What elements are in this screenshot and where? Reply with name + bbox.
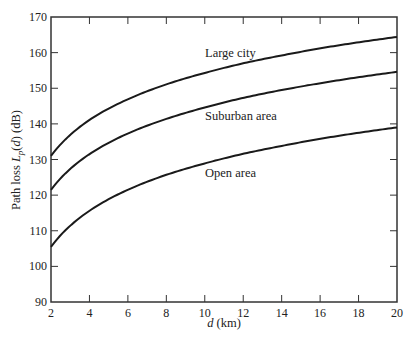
curve-label-open-area: Open area	[205, 166, 256, 180]
y-tick-label: 120	[29, 188, 47, 202]
curve-label-suburban-area: Suburban area	[205, 109, 277, 123]
y-tick-label: 160	[29, 46, 47, 60]
x-tick-label: 2	[48, 306, 54, 320]
y-axis-label: Path loss Lp(d) (dB)	[9, 110, 25, 210]
x-tick-label: 6	[125, 306, 131, 320]
y-tick-label: 140	[29, 117, 47, 131]
x-tick-label: 8	[163, 306, 169, 320]
x-tick-label: 14	[276, 306, 288, 320]
y-tick-label: 100	[29, 259, 47, 273]
x-tick-label: 20	[391, 306, 403, 320]
x-tick-label: 16	[314, 306, 326, 320]
y-tick-label: 170	[29, 10, 47, 24]
curves	[51, 37, 397, 247]
y-tick-labels: 90100110120130140150160170	[29, 10, 47, 309]
x-axis-label: d (km)	[207, 316, 241, 330]
path-loss-chart: 90100110120130140150160170 2468101214161…	[0, 0, 411, 343]
y-tick-label: 130	[29, 153, 47, 167]
x-tick-label: 18	[353, 306, 365, 320]
y-tick-label: 150	[29, 81, 47, 95]
x-tick-label: 4	[86, 306, 92, 320]
curve-label-large-city: Large city	[205, 46, 257, 60]
y-tick-label: 110	[29, 224, 47, 238]
y-tick-label: 90	[35, 295, 47, 309]
